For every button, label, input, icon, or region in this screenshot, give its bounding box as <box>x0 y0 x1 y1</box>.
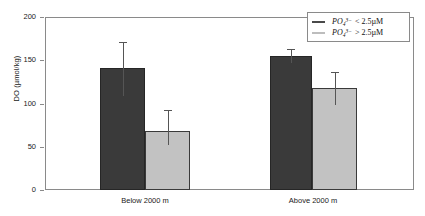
y-tick-0-label: 0 <box>0 185 36 194</box>
legend-label-low-po4-sup: 3− <box>345 17 351 23</box>
errorbar-cap-top-below2000-high-po4 <box>164 110 172 111</box>
legend-relation-high-po4: > 2.5µM <box>355 28 383 37</box>
legend-swatch-high-po4-icon <box>312 32 325 34</box>
legend-item-high-po4[interactable]: PO43− > 2.5µM <box>312 27 404 38</box>
legend: PO43− < 2.5µM PO43− > 2.5µM <box>307 12 410 42</box>
errorbar-cap-top-above2000-low-po4 <box>287 49 295 50</box>
y-tick-150-label: 150 <box>0 55 36 64</box>
x-tick-below-2000m: Below 2000 m <box>121 196 169 205</box>
y-tick-200-mark <box>40 17 44 18</box>
errorbar-above2000-high-po4 <box>335 72 336 105</box>
y-tick-100-label: 100 <box>0 99 36 108</box>
errorbar-cap-top-below2000-low-po4 <box>119 42 127 43</box>
errorbar-cap-top-above2000-high-po4 <box>331 72 339 73</box>
legend-swatch-low-po4-icon <box>312 21 325 23</box>
y-tick-50-label: 50 <box>0 142 36 151</box>
y-tick-100-mark <box>40 104 44 105</box>
errorbar-below2000-high-po4 <box>168 110 169 145</box>
legend-relation-low-po4: < 2.5µM <box>355 17 383 26</box>
y-tick-50-mark <box>40 147 44 148</box>
legend-label-high-po4-sup: 3− <box>345 28 351 34</box>
errorbar-below2000-low-po4 <box>123 42 124 96</box>
legend-label-high-po4: PO43− <box>332 28 352 38</box>
legend-label-low-po4-base: PO <box>332 17 343 26</box>
errorbar-above2000-low-po4 <box>291 49 292 63</box>
y-tick-0-mark <box>40 190 44 191</box>
x-tick-above-2000m: Above 2000 m <box>289 196 337 205</box>
bar-above2000-low-po4 <box>270 56 312 190</box>
legend-label-low-po4: PO43− <box>332 17 352 27</box>
bar-chart-figure: DO (µmol/kg) 0 50 100 150 200 Below <box>0 0 425 216</box>
legend-item-low-po4[interactable]: PO43− < 2.5µM <box>312 16 404 27</box>
y-tick-200-label: 200 <box>0 12 36 21</box>
y-tick-150-mark <box>40 60 44 61</box>
legend-label-high-po4-base: PO <box>332 28 343 37</box>
y-axis-title: DO (µmol/kg) <box>12 19 21 139</box>
